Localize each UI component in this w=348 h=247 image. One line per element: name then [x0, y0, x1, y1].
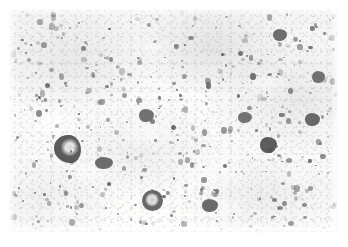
micrograph-figure	[0, 0, 348, 247]
micrograph-image	[9, 9, 338, 233]
tissue-granularity-layer	[9, 9, 338, 233]
